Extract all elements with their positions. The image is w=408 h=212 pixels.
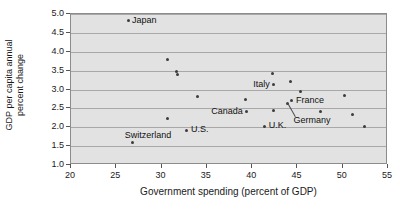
x-tick-label: 30 [149, 170, 173, 180]
x-tick-mark [387, 164, 388, 168]
data-point [271, 72, 274, 75]
data-point-label: U.S. [191, 124, 209, 134]
data-point-label: U.K. [269, 120, 287, 130]
gridline [71, 146, 386, 147]
data-point [166, 58, 169, 61]
y-tick-label: 3.0 [40, 84, 64, 94]
x-axis-title: Government spending (percent of GDP) [70, 186, 387, 197]
data-point [351, 113, 354, 116]
x-tick-label: 35 [194, 170, 218, 180]
data-point [166, 117, 169, 120]
y-tick-label: 4.5 [40, 27, 64, 37]
x-tick-mark [342, 164, 343, 168]
x-tick-mark [206, 164, 207, 168]
data-point-label: Germany [293, 115, 330, 125]
x-tick-mark [115, 164, 116, 168]
data-point [245, 110, 248, 113]
x-tick-label: 45 [284, 170, 308, 180]
data-point [272, 83, 275, 86]
plot-area: JapanU.S.CanadaU.K.ItalyGermanyFranceSwi… [70, 13, 387, 164]
x-tick-label: 50 [330, 170, 354, 180]
data-point [127, 19, 130, 22]
data-point [289, 80, 292, 83]
data-point [299, 90, 302, 93]
x-tick-mark [70, 164, 71, 168]
y-axis-title-line2: percent change [15, 40, 26, 131]
gridline [71, 52, 386, 53]
data-point [363, 125, 366, 128]
data-point [290, 99, 293, 102]
data-point-label: Japan [132, 15, 157, 25]
x-tick-mark [296, 164, 297, 168]
y-axis-title: GDP per capita annual percent change [0, 0, 30, 170]
data-point-label: Italy [253, 79, 270, 89]
y-tick-label: 2.0 [40, 121, 64, 131]
data-point [319, 110, 322, 113]
y-tick-label: 2.5 [40, 102, 64, 112]
data-point-label: Canada [211, 106, 243, 116]
x-tick-label: 20 [58, 170, 82, 180]
x-tick-mark [161, 164, 162, 168]
x-tick-label: 40 [239, 170, 263, 180]
y-tick-label: 5.0 [40, 8, 64, 18]
data-point [244, 98, 247, 101]
data-point [196, 95, 199, 98]
y-tick-label: 4.0 [40, 46, 64, 56]
y-axis-title-line1: GDP per capita annual [4, 40, 14, 131]
data-point [343, 94, 346, 97]
gridline [71, 90, 386, 91]
gridline [71, 14, 386, 15]
gridline [71, 71, 386, 72]
x-tick-mark [251, 164, 252, 168]
x-tick-label: 55 [375, 170, 399, 180]
data-point [185, 129, 188, 132]
scatter-chart-figure: GDP per capita annual percent change 1.0… [0, 0, 408, 212]
x-tick-label: 25 [103, 170, 127, 180]
gridline [71, 33, 386, 34]
data-point [131, 141, 134, 144]
y-tick-label: 1.5 [40, 140, 64, 150]
y-tick-label: 3.5 [40, 65, 64, 75]
y-tick-label: 1.0 [40, 159, 64, 169]
gridline [71, 127, 386, 128]
chart-annotation: Switzerland [125, 130, 172, 140]
data-point-label: France [296, 95, 324, 105]
data-point [176, 73, 179, 76]
data-point [272, 109, 275, 112]
